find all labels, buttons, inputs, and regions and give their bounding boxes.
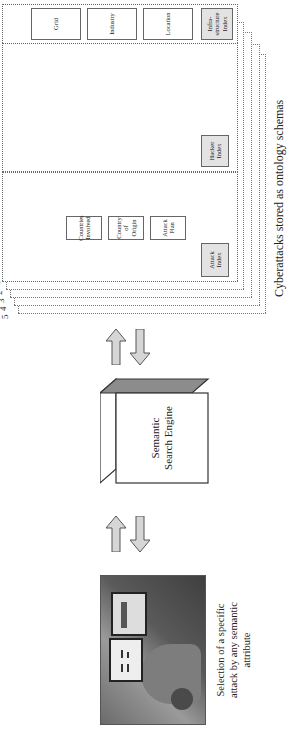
schema-title: Cyberattacks stored as ontology schemas [272,100,287,297]
infrastructure-index: Infra-structure Index [201,8,233,40]
attack-cell: Attack Plan [150,216,186,240]
layer-label-5: 5 [0,315,10,320]
arrow-down-left [130,516,150,552]
attack-index: Attack Index [201,243,229,277]
diagram-canvas: Selection of a specific attack by any se… [0,0,289,737]
layer-label-3: 3 [0,299,6,304]
attack-cell: Countries Involved [66,216,102,240]
infra-location: Location [143,8,193,40]
layer-label-2: 2 [0,291,4,296]
infra-industry: Industry [87,8,137,40]
arrow-up-right [106,329,126,365]
hacker-index: Hacker Index [201,135,229,167]
layer-label-4: 4 [0,307,8,312]
photo-caption: Selection of a specific attack by any se… [214,575,253,725]
arrow-down-right [130,329,150,365]
semantic-search-engine: Semantic Search Engine [100,377,210,497]
infra-grid: Grid [31,8,81,40]
attack-cell: Country of Origin [108,216,144,240]
infrastructure-panel: Infra-structure Index Location Industry … [2,4,238,44]
user-photo [100,575,206,725]
arrow-up-left [106,516,126,552]
